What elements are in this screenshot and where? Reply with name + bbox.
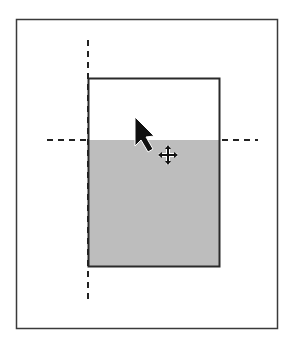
shaded-region: [88, 140, 220, 267]
drag-diagram: [0, 0, 294, 347]
